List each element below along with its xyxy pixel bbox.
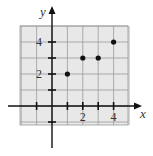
y-tick-label: 2 [36,67,42,81]
data-point [96,55,101,60]
y-axis-label: y [38,4,46,19]
x-axis-label: x [139,106,146,121]
scatter-chart: 2424 x y [0,0,153,156]
y-tick-label: 4 [36,35,42,49]
data-point [80,55,85,60]
data-point [111,39,116,44]
x-tick-label: 4 [111,110,117,124]
data-point [65,71,70,76]
x-tick-label: 2 [80,110,86,124]
y-axis-arrow-icon [49,6,56,14]
